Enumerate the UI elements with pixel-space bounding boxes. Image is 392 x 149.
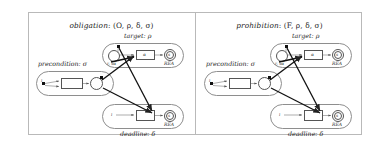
arrow-overlay-prohibition (196, 12, 363, 135)
panel-prohibition: prohibition: (F, ρ, δ, σ) precondition: … (196, 12, 363, 135)
panel-obligation: obligation: (O, ρ, δ, σ) precondition: σ… (28, 12, 195, 135)
arrow-pre-src-to-box-2 (45, 86, 59, 87)
arrow-pre-src-to-box (45, 81, 59, 84)
arrow-junction-to-deadline-r (271, 88, 320, 113)
arrow-target-place-to-box-bold (111, 57, 134, 62)
arrow-pre-src-to-box-2-r (213, 86, 227, 87)
arrow-pre-src-to-box-r (213, 81, 227, 84)
arrow-target-marker-to-deadline-r (287, 48, 320, 111)
arrow-target-place-to-box-bold-r (279, 57, 302, 62)
arrow-junction-to-deadline (103, 88, 152, 113)
arrow-overlay-obligation (28, 12, 195, 135)
arrow-target-marker-to-deadline (119, 48, 152, 111)
figure-root: obligation: (O, ρ, δ, σ) precondition: σ… (0, 0, 392, 149)
